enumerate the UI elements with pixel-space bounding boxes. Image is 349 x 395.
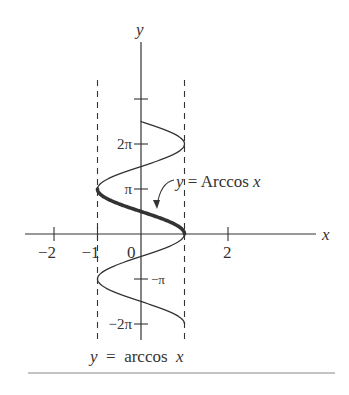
x-ticks: −2−102: [38, 227, 232, 262]
arccos-plot: x y −2−102 2ππ−π−2π y = Arccos x y = arc…: [0, 0, 349, 395]
annotation-label: y = Arccos x: [174, 172, 261, 191]
figure-caption: y = arccos x: [88, 347, 184, 366]
y-axis-label: y: [134, 20, 144, 39]
x-tick-label: −1: [82, 243, 100, 262]
arrow-head-icon: [153, 200, 160, 209]
x-axis-label: x: [321, 225, 330, 244]
y-tick-label: π: [124, 181, 132, 197]
arccos-principal-annotation: y = Arccos x: [153, 172, 261, 209]
x-tick-label: 2: [223, 243, 232, 262]
arccos-figure: x y −2−102 2ππ−π−2π y = Arccos x y = arc…: [0, 0, 349, 395]
y-tick-label: 2π: [117, 136, 133, 152]
annotation-arrow-icon: [157, 180, 174, 206]
x-tick-label: −2: [38, 243, 56, 262]
y-tick-label: −2π: [108, 316, 132, 332]
y-tick-label: −π: [151, 272, 165, 287]
